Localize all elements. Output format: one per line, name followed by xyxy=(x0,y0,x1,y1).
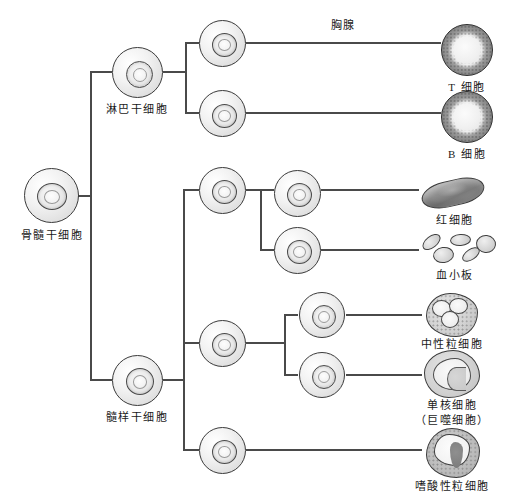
cell-eosinophil xyxy=(426,428,480,478)
edge-myeloid-to-bracket xyxy=(163,379,183,381)
cell-lymphoid-progenitor-b xyxy=(199,90,246,137)
nucleus xyxy=(312,365,336,389)
edge-myeloid-bracket-vertical xyxy=(183,190,185,450)
cell-monocyte-precursor xyxy=(299,352,345,398)
platelet xyxy=(450,233,472,246)
hematopoiesis-diagram: 骨髓干细胞 淋巴干细胞 髓样干细胞 胸腺 xyxy=(0,0,510,502)
neutrophil-nucleus-lobe xyxy=(441,311,459,328)
edge-lymphoid-bracket-to-b xyxy=(185,112,199,114)
edge-main-bracket-vertical xyxy=(90,72,92,381)
edge-subbracket-to-neutrophil-precursor xyxy=(284,314,298,316)
nucleus xyxy=(126,368,154,395)
cell-erythrocyte xyxy=(419,173,487,213)
edge-neutrophil-precursor-to-neutrophil xyxy=(346,314,422,316)
label-bone-marrow-stem-cell: 骨髓干细胞 xyxy=(21,228,84,242)
edge-subbracket-to-monocyte-precursor xyxy=(284,374,298,376)
edge-bracket-to-lymphoid xyxy=(90,71,112,73)
label-platelet: 血小板 xyxy=(436,268,474,282)
nucleus xyxy=(212,440,237,464)
edge-myeloid-bracket-to-eosinophil xyxy=(183,449,199,451)
cell-erythroid-precursor xyxy=(274,170,321,217)
label-b-cell: B 细胞 xyxy=(448,147,486,161)
cell-lymphoid-stem-cell xyxy=(112,47,163,98)
nucleus xyxy=(287,183,312,207)
edge-b-progenitor-to-bcell xyxy=(246,112,441,114)
nucleus xyxy=(37,183,67,210)
label-erythrocyte: 红细胞 xyxy=(436,213,474,227)
cell-myeloid-progenitor-erythroid xyxy=(199,167,246,214)
edge-eosinophil-precursor-to-eosinophil xyxy=(246,449,422,451)
edge-megakaryocyte-to-platelet xyxy=(321,249,419,251)
edge-bracket-to-myeloid xyxy=(90,379,112,381)
label-macrophage: （巨噬细胞） xyxy=(415,413,490,427)
cell-b-cell xyxy=(441,91,493,143)
edge-myeloid-bracket-to-erythroid xyxy=(183,189,199,191)
edge-monocyte-precursor-to-monocyte xyxy=(346,374,422,376)
label-eosinophil: 嗜酸性粒细胞 xyxy=(415,479,490,493)
cell-megakaryocyte-precursor xyxy=(274,227,321,274)
edge-granulocyte-prog-to-subbracket xyxy=(246,342,284,344)
cell-myeloid-stem-cell xyxy=(112,355,163,406)
edge-granulocyte-subbracket-vertical xyxy=(284,314,286,375)
nucleus xyxy=(212,333,237,357)
edge-subbracket-to-erythroid-precursor xyxy=(260,189,274,191)
nucleus xyxy=(212,180,237,204)
label-neutrophil: 中性粒细胞 xyxy=(421,337,484,351)
cell-lymphoid-progenitor-t xyxy=(199,20,246,67)
edge-erythroid-precursor-to-rbc xyxy=(321,189,419,191)
edge-erythroid-subbracket-vertical xyxy=(260,189,262,250)
cell-eosinophil-precursor xyxy=(199,427,246,474)
cell-neutrophil xyxy=(426,293,478,337)
label-myeloid-stem-cell: 髓样干细胞 xyxy=(106,410,169,424)
edge-myeloid-bracket-to-granulocyte xyxy=(183,342,199,344)
platelet xyxy=(432,246,455,265)
edge-t-progenitor-to-tcell xyxy=(246,42,441,44)
cell-bone-marrow-stem-cell xyxy=(24,168,79,223)
edge-lymphoid-bracket-vertical xyxy=(185,43,187,114)
edge-erythroid-prog-to-subbracket xyxy=(246,189,260,191)
cell-myeloid-progenitor-granulocyte xyxy=(199,320,246,367)
label-lymphoid-stem-cell: 淋巴干细胞 xyxy=(106,102,169,116)
cell-monocyte xyxy=(424,350,480,398)
nucleus xyxy=(287,240,312,264)
label-monocyte: 单核细胞 xyxy=(427,398,477,412)
nucleus xyxy=(312,305,336,329)
cell-t-cell xyxy=(441,24,493,76)
edge-subbracket-to-megakaryocyte xyxy=(260,249,274,251)
nucleus xyxy=(126,61,153,88)
nucleus xyxy=(212,33,237,57)
cell-neutrophil-precursor xyxy=(299,292,345,338)
edge-lymphoid-to-bracket xyxy=(163,71,185,73)
monocyte-nucleus-indent xyxy=(447,367,466,391)
nucleus xyxy=(212,104,237,128)
edge-lymphoid-bracket-to-t xyxy=(185,42,199,44)
cell-platelet-group xyxy=(421,232,495,266)
label-thymus: 胸腺 xyxy=(331,18,356,32)
